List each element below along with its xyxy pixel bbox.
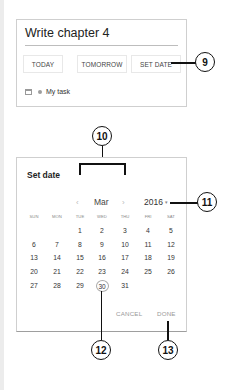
task-card: Write chapter 4 TODAY TOMORROW SET DATE … (16, 19, 187, 107)
callout-12: 12 (91, 340, 111, 360)
list-name: My task (46, 88, 70, 95)
task-list-selector[interactable]: My task (25, 88, 70, 95)
calendar-day[interactable]: 28 (49, 282, 65, 289)
calendar-day[interactable]: 4 (140, 227, 156, 234)
calendar-day[interactable]: 20 (26, 268, 42, 275)
callout-11-leader-line (170, 202, 198, 204)
callout-9: 9 (195, 52, 215, 72)
callout-13: 13 (158, 340, 178, 360)
year-dropdown-arrow-icon[interactable]: ▾ (165, 199, 168, 205)
tomorrow-button[interactable]: TOMORROW (77, 55, 127, 73)
title-divider (25, 45, 178, 46)
calendar-day[interactable]: 26 (163, 268, 179, 275)
calendar-day[interactable]: 25 (140, 268, 156, 275)
calendar-day[interactable]: 14 (49, 254, 65, 261)
calendar-day[interactable]: 10 (117, 241, 133, 248)
calendar-day[interactable]: 17 (117, 254, 133, 261)
calendar-day[interactable]: 7 (49, 241, 65, 248)
left-edge-strip (0, 0, 4, 390)
calendar-day[interactable]: 18 (140, 254, 156, 261)
prev-month-chevron-left-icon[interactable]: ‹ (76, 198, 79, 207)
today-button[interactable]: TODAY (23, 55, 63, 73)
weekday-header: WED (92, 214, 112, 219)
calendar-day[interactable]: 11 (140, 241, 156, 248)
calendar-day[interactable]: 22 (72, 268, 88, 275)
weekday-header: SAT (161, 214, 181, 219)
weekday-header: THU (115, 214, 135, 219)
calendar-day[interactable]: 19 (163, 254, 179, 261)
calendar-day[interactable]: 16 (94, 254, 110, 261)
callout-12-leader-line (101, 291, 103, 340)
calendar-day[interactable]: 6 (26, 241, 42, 248)
calendar-icon (25, 89, 32, 95)
calendar-day[interactable]: 31 (117, 282, 133, 289)
calendar-day[interactable]: 24 (117, 268, 133, 275)
calendar-day[interactable]: 23 (94, 268, 110, 275)
callout-10-bracket-left (79, 163, 81, 175)
calendar-day[interactable]: 8 (72, 241, 88, 248)
weekday-header: FRI (138, 214, 158, 219)
callout-10-bracket-right (124, 163, 126, 175)
calendar-day[interactable]: 1 (72, 227, 88, 234)
calendar-day[interactable]: 21 (49, 268, 65, 275)
calendar-day[interactable]: 3 (117, 227, 133, 234)
callout-10-bracket-top (79, 163, 125, 165)
calendar-day[interactable]: 29 (72, 282, 88, 289)
year-selector[interactable]: 2016 (144, 197, 163, 207)
weekday-header: MON (47, 214, 67, 219)
dialog-title: Set date (27, 170, 60, 180)
weekday-header: SUN (24, 214, 44, 219)
callout-11: 11 (197, 192, 217, 212)
set-date-button[interactable]: SET DATE (131, 55, 181, 73)
callout-13-leader-line (167, 321, 169, 340)
calendar-day[interactable]: 13 (26, 254, 42, 261)
calendar-day[interactable]: 5 (163, 227, 179, 234)
calendar-day[interactable]: 2 (94, 227, 110, 234)
callout-9-leader-line (171, 62, 196, 64)
weekday-header: TUE (70, 214, 90, 219)
list-color-dot-icon (38, 90, 42, 94)
cancel-button[interactable]: CANCEL (116, 310, 142, 317)
calendar-day[interactable]: 15 (72, 254, 88, 261)
month-label: Mar (94, 197, 109, 207)
callout-10: 10 (92, 126, 112, 146)
calendar-day[interactable]: 12 (163, 241, 179, 248)
calendar-day[interactable]: 9 (94, 241, 110, 248)
calendar-day[interactable]: 27 (26, 282, 42, 289)
task-title-input[interactable]: Write chapter 4 (25, 26, 110, 40)
done-button[interactable]: DONE (157, 310, 176, 317)
next-month-chevron-right-icon[interactable]: › (122, 198, 125, 207)
